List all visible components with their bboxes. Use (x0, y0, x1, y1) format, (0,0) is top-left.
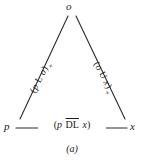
paren-close: ) (87, 119, 90, 130)
figure-container: o p x (p L o)+ (o U x)+ (p DL x) (a) (0, 0, 144, 166)
figure-caption: (a) (0, 143, 144, 154)
triangle-edges (0, 0, 144, 166)
vertex-label-o: o (66, 1, 72, 12)
operand-left: p (57, 119, 62, 130)
relation-symbol: DL (65, 119, 80, 130)
edge-label-base: (p DL x) (0, 120, 144, 130)
